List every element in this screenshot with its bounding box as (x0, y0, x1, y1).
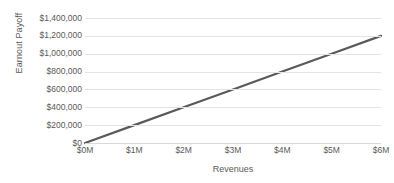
x-axis-tick-labels: $0M$1M$2M$3M$4M$5M$6M (85, 145, 381, 159)
gridline (85, 89, 381, 90)
x-axis-tick-label: $6M (351, 145, 394, 155)
gridline (85, 107, 381, 108)
y-axis-title: Earnout Payoff (14, 0, 24, 98)
gridline (85, 143, 381, 144)
x-axis-title: Revenues (85, 164, 381, 174)
y-axis-tick-label: $600,000 (30, 85, 82, 93)
y-axis-tick-label: $400,000 (30, 103, 82, 111)
y-axis-tick-label: $200,000 (30, 121, 82, 129)
y-axis-tick-labels: $0$200,000$400,000$600,000$800,000$1,000… (30, 14, 82, 143)
gridline (85, 36, 381, 37)
y-axis-tick-label: $800,000 (30, 67, 82, 75)
gridline (85, 72, 381, 73)
gridline (85, 18, 381, 19)
y-axis-tick-label: $1,400,000 (30, 14, 82, 22)
plot-area (85, 18, 381, 143)
y-axis-tick-label: $1,200,000 (30, 31, 82, 39)
gridline (85, 125, 381, 126)
gridline (85, 54, 381, 55)
y-axis-tick-label: $1,000,000 (30, 49, 82, 57)
